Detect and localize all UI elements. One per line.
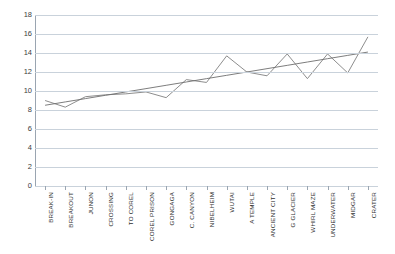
gridline-12 bbox=[35, 72, 378, 73]
x-tick-label-13: WHIRL MAZE bbox=[310, 192, 316, 233]
x-tick-label-7: C. CANYON bbox=[189, 192, 195, 228]
y-tick-label-14: 14 bbox=[12, 49, 32, 57]
x-tick-label-3: CROSSING bbox=[108, 192, 114, 227]
x-tick-label-5: COREL PRISON bbox=[149, 192, 155, 241]
x-tick-mark-13 bbox=[307, 186, 308, 190]
x-tick-label-1: BREAKOUT bbox=[68, 192, 74, 228]
x-tick-mark-14 bbox=[328, 186, 329, 190]
gridline-14 bbox=[35, 53, 378, 54]
x-tick-mark-12 bbox=[287, 186, 288, 190]
gridline-2 bbox=[35, 167, 378, 168]
y-tick-label-16: 16 bbox=[12, 30, 32, 38]
x-tick-mark-10 bbox=[247, 186, 248, 190]
x-tick-mark-0 bbox=[45, 186, 46, 190]
y-axis-tick-labels: 181614121086420 bbox=[8, 0, 32, 254]
x-tick-mark-6 bbox=[166, 186, 167, 190]
x-tick-mark-5 bbox=[146, 186, 147, 190]
x-tick-mark-9 bbox=[227, 186, 228, 190]
chart-title bbox=[0, 0, 395, 1]
x-tick-label-6: GONGAGA bbox=[169, 192, 175, 225]
x-tick-label-15: MIDGAR bbox=[350, 192, 356, 218]
x-tick-mark-7 bbox=[186, 186, 187, 190]
gridline-8 bbox=[35, 110, 378, 111]
y-tick-label-4: 4 bbox=[12, 144, 32, 152]
line-chart: 181614121086420 BREAK-INBREAKOUTJUNONCRO… bbox=[0, 0, 395, 254]
x-tick-mark-8 bbox=[207, 186, 208, 190]
gridline-16 bbox=[35, 34, 378, 35]
y-tick-label-12: 12 bbox=[12, 68, 32, 76]
gridline-18 bbox=[35, 15, 378, 16]
x-tick-label-8: NIBELHEIM bbox=[209, 192, 215, 227]
x-tick-mark-3 bbox=[106, 186, 107, 190]
plot-area bbox=[35, 15, 378, 186]
x-tick-label-16: CRATER bbox=[371, 192, 377, 218]
x-tick-label-12: G GLACIER bbox=[290, 192, 296, 228]
x-tick-label-9: WUTAI bbox=[229, 192, 235, 212]
gridline-6 bbox=[35, 129, 378, 130]
x-tick-label-14: UNDERWATER bbox=[330, 192, 336, 238]
gridline-4 bbox=[35, 148, 378, 149]
series-line-trendline bbox=[45, 52, 368, 105]
x-tick-label-2: JUNON bbox=[88, 192, 94, 214]
x-tick-mark-11 bbox=[267, 186, 268, 190]
series-svg bbox=[35, 15, 378, 186]
y-tick-label-0: 0 bbox=[12, 182, 32, 190]
y-tick-label-10: 10 bbox=[12, 87, 32, 95]
x-tick-label-11: ANCIENT CITY bbox=[270, 192, 276, 237]
x-tick-label-0: BREAK-IN bbox=[48, 192, 54, 223]
y-tick-label-6: 6 bbox=[12, 125, 32, 133]
x-tick-label-4: TO COREL bbox=[128, 192, 134, 225]
x-tick-label-10: A TEMPLE bbox=[249, 192, 255, 224]
y-tick-label-18: 18 bbox=[12, 11, 32, 19]
y-tick-label-8: 8 bbox=[12, 106, 32, 114]
x-tick-mark-4 bbox=[126, 186, 127, 190]
x-tick-mark-2 bbox=[85, 186, 86, 190]
x-tick-mark-1 bbox=[65, 186, 66, 190]
x-tick-mark-16 bbox=[368, 186, 369, 190]
gridline-10 bbox=[35, 91, 378, 92]
y-tick-label-2: 2 bbox=[12, 163, 32, 171]
x-tick-mark-15 bbox=[348, 186, 349, 190]
